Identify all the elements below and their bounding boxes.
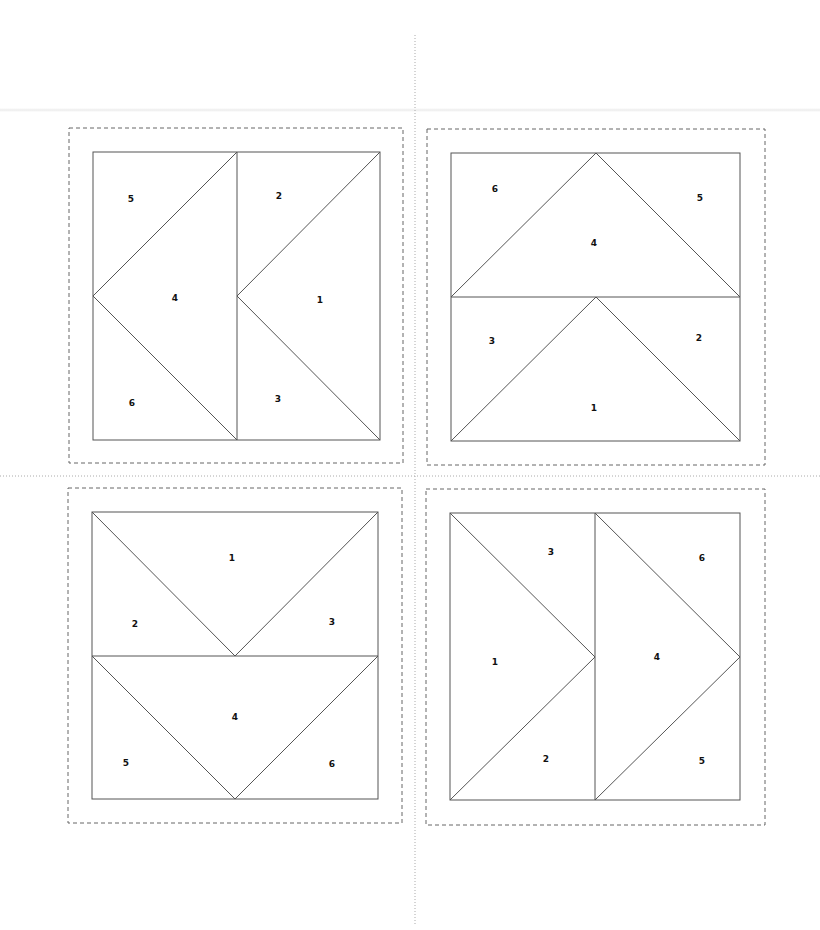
piece-number-label: 4 <box>232 712 238 722</box>
piece-number-label: 3 <box>329 617 335 627</box>
piece-number-label: 1 <box>591 403 597 413</box>
sewing-line <box>451 153 596 297</box>
piece-number-label: 2 <box>696 333 702 343</box>
piece-number-label: 3 <box>275 394 281 404</box>
piece-number-label: 1 <box>492 657 498 667</box>
sewing-line <box>451 297 596 441</box>
pattern-block-top-right: 654321 <box>427 129 765 465</box>
sewing-line <box>237 152 380 296</box>
pattern-block-top-left: 524163 <box>69 128 403 463</box>
piece-number-label: 6 <box>699 553 705 563</box>
piece-number-label: 5 <box>697 193 703 203</box>
piece-number-label: 6 <box>329 759 335 769</box>
piece-number-label: 4 <box>654 652 660 662</box>
sewing-line <box>93 296 237 440</box>
piece-number-label: 5 <box>699 756 705 766</box>
piece-number-label: 3 <box>489 336 495 346</box>
pattern-block-bottom-right: 361425 <box>426 489 765 825</box>
pattern-block-bottom-left: 123456 <box>68 488 402 823</box>
piece-number-label: 6 <box>492 184 498 194</box>
piece-number-label: 5 <box>128 194 134 204</box>
piece-number-label: 2 <box>132 619 138 629</box>
piece-number-label: 2 <box>543 754 549 764</box>
sewing-line <box>450 513 595 657</box>
piece-number-label: 5 <box>123 758 129 768</box>
sewing-line <box>235 512 378 656</box>
sewing-line <box>596 153 740 297</box>
piece-number-label: 1 <box>229 553 235 563</box>
piece-number-label: 4 <box>591 238 597 248</box>
sewing-line <box>595 513 740 657</box>
sewing-line <box>237 296 380 440</box>
piece-number-label: 6 <box>129 398 135 408</box>
sewing-line <box>93 152 237 296</box>
piece-number-label: 3 <box>548 547 554 557</box>
sewing-line <box>92 512 235 656</box>
piece-number-label: 1 <box>317 295 323 305</box>
piece-number-label: 4 <box>172 293 178 303</box>
quilt-pattern-sheet: 524163654321123456361425 <box>0 0 820 930</box>
sewing-line <box>595 657 740 800</box>
piece-number-label: 2 <box>276 191 282 201</box>
sewing-line <box>450 657 595 800</box>
sewing-line <box>92 656 235 799</box>
sewing-line <box>596 297 740 441</box>
sewing-line <box>235 656 378 799</box>
